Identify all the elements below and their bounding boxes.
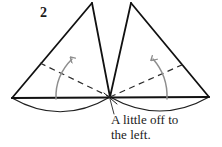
left-cone xyxy=(12,3,110,112)
right-rotation-arrow xyxy=(153,59,167,99)
left-cone-base-arc xyxy=(12,97,110,112)
caption: A little off to the left. xyxy=(111,112,219,142)
step-number: 2 xyxy=(40,6,47,20)
right-cone-left-edge xyxy=(110,3,131,97)
right-cone xyxy=(110,3,209,111)
figure-root: 2 A little off to the left. xyxy=(0,0,222,147)
left-cone-left-edge xyxy=(12,3,92,98)
right-radius-guide xyxy=(110,64,184,97)
caption-line-1: A little off to xyxy=(111,112,219,127)
right-cone-base-arc xyxy=(110,97,209,111)
caption-line-2: the left. xyxy=(111,127,219,142)
left-cone-right-edge xyxy=(92,3,110,97)
left-radius-guide xyxy=(40,63,110,97)
left-rotation-arrow xyxy=(56,59,72,99)
